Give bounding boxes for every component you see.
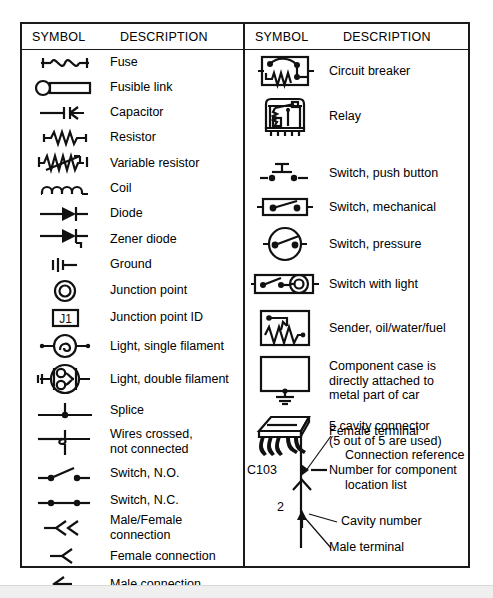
zener-diode-icon bbox=[22, 228, 108, 250]
fusible-link-icon bbox=[22, 79, 108, 97]
symbol-legend-table: SYMBOL DESCRIPTION Fuse bbox=[20, 22, 470, 568]
table-row: Wires crossed, not connected bbox=[22, 424, 243, 460]
row-label: Male/Female connection bbox=[108, 513, 243, 543]
row-label: Switch, mechanical bbox=[325, 200, 468, 215]
capacitor-icon bbox=[22, 104, 108, 122]
row-label: Resistor bbox=[108, 130, 243, 145]
table-row: Switch, push button bbox=[245, 156, 468, 190]
row-label: Zener diode bbox=[108, 232, 243, 247]
table-row: Switch, N.O. bbox=[22, 460, 243, 487]
row-label: Splice bbox=[108, 403, 243, 418]
coil-icon bbox=[22, 180, 108, 198]
switch-nc-icon bbox=[22, 490, 108, 512]
cavity-number-label: 2 bbox=[277, 500, 284, 515]
diode-icon bbox=[22, 205, 108, 223]
row-label: Circuit breaker bbox=[325, 64, 468, 79]
table-row: Switch, N.C. bbox=[22, 487, 243, 514]
junction-point-id-icon: J1 bbox=[22, 307, 108, 329]
relay-icon bbox=[245, 94, 325, 138]
spacer bbox=[245, 140, 468, 156]
left-header-description: DESCRIPTION bbox=[118, 30, 208, 44]
table-row: Junction point bbox=[22, 277, 243, 304]
left-column-header-row: SYMBOL DESCRIPTION bbox=[22, 24, 243, 50]
table-row: J1 Junction point ID bbox=[22, 304, 243, 331]
sender-icon bbox=[245, 307, 325, 349]
right-header-symbol: SYMBOL bbox=[245, 30, 341, 44]
table-row: Switch with light bbox=[245, 264, 468, 304]
row-label: Diode bbox=[108, 206, 243, 221]
callout-connection-reference: Connection reference bbox=[345, 448, 465, 463]
table-row: Sender, oil/water/fuel bbox=[245, 304, 468, 352]
row-label: Female connection bbox=[108, 549, 243, 564]
row-label: Fuse bbox=[108, 55, 243, 70]
connector-id-label: C103 bbox=[247, 463, 277, 478]
table-row: Zener diode bbox=[22, 226, 243, 252]
right-column-header-row: SYMBOL DESCRIPTION bbox=[245, 24, 468, 50]
row-label: Fusible link bbox=[108, 80, 243, 95]
switch-mechanical-icon bbox=[245, 193, 325, 221]
row-label: Component case is directly attached to m… bbox=[325, 359, 468, 403]
fuse-icon bbox=[22, 54, 108, 72]
callout-female-terminal: Female terminal bbox=[329, 424, 419, 439]
row-label: Light, single filament bbox=[108, 339, 243, 354]
callout-cavity-number: Cavity number bbox=[341, 514, 422, 529]
row-label: Switch, N.C. bbox=[108, 493, 243, 508]
row-label: Switch with light bbox=[325, 277, 468, 292]
row-label: Capacitor bbox=[108, 105, 243, 120]
junction-point-icon bbox=[22, 279, 108, 303]
table-row: Light, double filament bbox=[22, 361, 243, 397]
circuit-breaker-icon bbox=[245, 52, 325, 90]
splice-icon bbox=[22, 400, 108, 422]
component-case-ground-icon bbox=[245, 355, 325, 407]
light-double-filament-icon bbox=[22, 362, 108, 396]
row-label: Switch, push button bbox=[325, 166, 468, 181]
right-header-description: DESCRIPTION bbox=[341, 30, 431, 44]
connector-annotation-diagram: C103 2 Female terminal Connection refere… bbox=[245, 414, 468, 566]
table-row: Fusible link bbox=[22, 75, 243, 100]
variable-resistor-icon bbox=[22, 153, 108, 173]
ground-icon bbox=[22, 255, 108, 275]
table-row: Switch, mechanical bbox=[245, 190, 468, 224]
switch-no-icon bbox=[22, 463, 108, 485]
row-label: Variable resistor bbox=[108, 156, 243, 171]
table-row: Switch, pressure bbox=[245, 224, 468, 264]
table-row: Resistor bbox=[22, 125, 243, 150]
switch-pressure-icon bbox=[245, 226, 325, 262]
table-row: Coil bbox=[22, 176, 243, 201]
resistor-icon bbox=[22, 129, 108, 147]
female-connection-icon bbox=[22, 546, 108, 566]
table-row: Male/Female connection bbox=[22, 514, 243, 542]
table-row: Fuse bbox=[22, 50, 243, 75]
row-label: Light, double filament bbox=[108, 372, 243, 387]
row-label: Junction point bbox=[108, 283, 243, 298]
left-column: SYMBOL DESCRIPTION Fuse bbox=[22, 24, 245, 566]
male-female-connection-icon bbox=[22, 518, 108, 538]
light-single-filament-icon bbox=[22, 332, 108, 360]
row-label: Ground bbox=[108, 257, 243, 272]
switch-push-button-icon bbox=[245, 158, 325, 188]
table-row: Relay bbox=[245, 92, 468, 140]
callout-number-for-component: Number for component bbox=[329, 463, 457, 478]
row-label: Sender, oil/water/fuel bbox=[325, 321, 468, 336]
junction-id-text: J1 bbox=[59, 311, 72, 325]
left-header-symbol: SYMBOL bbox=[22, 30, 118, 44]
right-column: SYMBOL DESCRIPTION bbox=[245, 24, 468, 566]
bottom-band bbox=[0, 585, 493, 598]
switch-with-light-icon bbox=[245, 269, 325, 299]
row-label: Wires crossed, not connected bbox=[108, 427, 243, 457]
row-label: Switch, pressure bbox=[325, 237, 468, 252]
row-label: Switch, N.O. bbox=[108, 466, 243, 481]
table-row: Diode bbox=[22, 201, 243, 226]
table-row: Variable resistor bbox=[22, 150, 243, 176]
table-row: Circuit breaker bbox=[245, 50, 468, 92]
left-column-rows: Fuse Fusible link bbox=[22, 50, 243, 598]
table-row: Light, single filament bbox=[22, 331, 243, 361]
callout-location-list: location list bbox=[345, 478, 407, 493]
row-label: Relay bbox=[325, 109, 468, 124]
row-label: Junction point ID bbox=[108, 310, 243, 325]
table-row: Splice bbox=[22, 397, 243, 424]
row-label: Coil bbox=[108, 181, 243, 196]
callout-male-terminal: Male terminal bbox=[329, 540, 404, 555]
table-row: Capacitor bbox=[22, 100, 243, 125]
wires-crossed-icon bbox=[22, 427, 108, 457]
